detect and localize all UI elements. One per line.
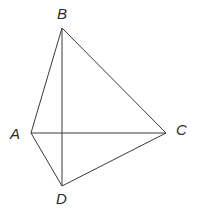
labels-group: B A C D xyxy=(9,5,187,207)
edge-cd xyxy=(62,133,166,186)
geometry-figure: B A C D xyxy=(0,0,198,212)
edges-group xyxy=(31,28,166,186)
edge-ab xyxy=(31,28,62,133)
vertex-label-b: B xyxy=(57,5,67,22)
vertex-label-d: D xyxy=(56,190,67,207)
edge-ad xyxy=(31,133,62,186)
edge-bc xyxy=(62,28,166,133)
vertex-label-c: C xyxy=(176,121,187,138)
vertex-label-a: A xyxy=(9,125,20,142)
